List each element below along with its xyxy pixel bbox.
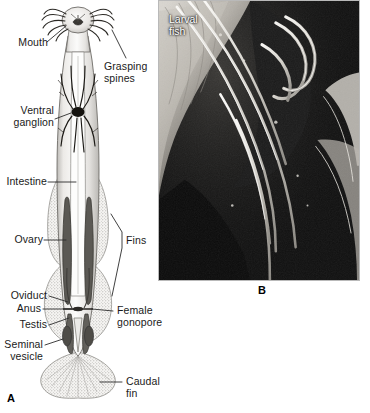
figure-container: Mouth Ventral ganglion Intestine Ovary O… xyxy=(0,0,370,413)
label-fins: Fins xyxy=(126,235,156,247)
panel-a-id: A xyxy=(7,392,15,404)
panel-b-id: B xyxy=(258,284,266,296)
label-seminal-vesicle: Seminal vesicle xyxy=(0,339,43,362)
label-intestine: Intestine xyxy=(2,176,47,188)
panel-a-line-drawing: Mouth Ventral ganglion Intestine Ovary O… xyxy=(0,0,158,413)
label-grasping-spines: Grasping spines xyxy=(104,61,156,84)
label-oviduct: Oviduct xyxy=(2,290,47,302)
label-caudal-fin: Caudal fin xyxy=(126,376,170,399)
label-ovary: Ovary xyxy=(4,234,43,246)
caudal-fin-shape xyxy=(41,352,115,398)
micrograph-image xyxy=(159,1,359,280)
label-female-gonopore: Female gonopore xyxy=(117,305,173,328)
label-ventral-ganglion: Ventral ganglion xyxy=(2,105,54,128)
label-mouth: Mouth xyxy=(6,37,48,49)
label-anus: Anus xyxy=(4,303,41,315)
label-testis: Testis xyxy=(4,319,47,331)
label-larval-fish: Larval fish xyxy=(169,13,198,37)
panel-b-micrograph: Larval fish xyxy=(158,0,360,281)
